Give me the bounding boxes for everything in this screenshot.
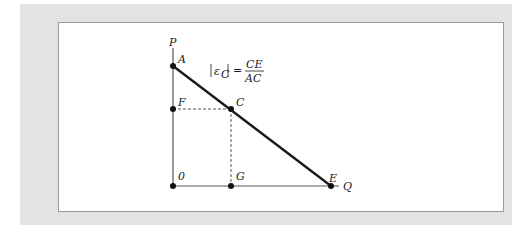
point-c-label: C (236, 96, 245, 109)
point-f-marker (170, 106, 176, 112)
origin-label: 0 (178, 170, 185, 183)
formula-subscript: C (221, 68, 230, 81)
point-f-label: F (177, 96, 186, 109)
point-g-label: G (236, 170, 245, 183)
formula-numerator: CE (246, 58, 262, 71)
point-a-label: A (177, 53, 186, 66)
formula-equals: = (233, 64, 242, 77)
point-e-label: E (328, 172, 337, 185)
point-g-marker (228, 183, 234, 189)
point-a-marker (170, 63, 176, 69)
formula-denominator: AC (244, 72, 262, 85)
x-axis-label: Q (343, 180, 352, 193)
origin-marker (170, 183, 176, 189)
point-c-marker (228, 106, 234, 112)
formula-epsilon: ε (214, 65, 220, 78)
elasticity-diagram: P Q 0 A F C G E ε C = CE AC (0, 0, 512, 225)
y-axis-label: P (168, 36, 177, 49)
elasticity-formula: ε C = CE AC (211, 58, 264, 85)
